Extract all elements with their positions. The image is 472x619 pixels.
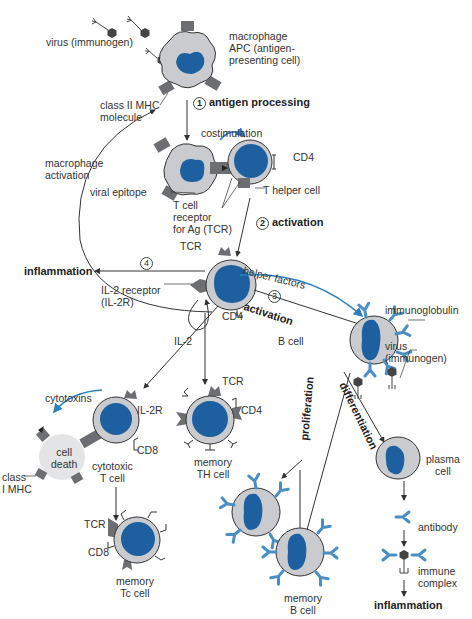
memory-b-cell-2 <box>263 520 337 585</box>
label-il2-receptor: IL-2 receptor (IL-2R) <box>101 284 161 308</box>
label-virus-b: virus (immunogen) <box>385 340 447 364</box>
label-step4: 4 <box>140 256 156 270</box>
memory-th-cell <box>176 386 242 450</box>
label-immunoglobulin: immunoglobulin <box>385 304 459 316</box>
antibody-icon <box>396 512 409 522</box>
immune-response-diagram: virus (immunogen) macrophage APC (antige… <box>0 0 472 619</box>
label-class-ii-mhc: class II MHC molecule <box>100 99 160 123</box>
label-t-cell-receptor: T cell receptor for Ag (TCR) <box>173 199 232 235</box>
label-inflammation-bottom: inflammation <box>374 599 442 611</box>
label-cell-death: cell death <box>51 446 77 470</box>
label-il2r: IL-2R <box>137 404 163 416</box>
label-class-i-mhc: class I MHC <box>2 471 32 495</box>
label-cd4-center: CD4 <box>222 310 243 322</box>
label-memory-b-cell: memory B cell <box>284 592 322 616</box>
label-plasma-cell: plasma cell <box>426 453 460 477</box>
apc-th-conjugate <box>153 132 276 208</box>
label-il2: IL-2 <box>174 335 192 347</box>
label-memory-th-cell: memory TH cell <box>194 456 232 480</box>
label-memory-tc-cell: memory Tc cell <box>116 575 154 599</box>
label-cd4-memory-th: CD4 <box>241 404 262 416</box>
arrow-il2 <box>144 306 218 388</box>
label-costimulation: costimulation <box>201 127 262 139</box>
label-step2-activation: 2activation <box>256 216 323 230</box>
memory-b-cell-1 <box>220 474 288 547</box>
label-step3: 3 <box>268 289 284 303</box>
label-cd8-memory-tc: CD8 <box>88 546 109 558</box>
label-inflammation-left: inflammation <box>24 265 92 277</box>
label-macrophage-apc: macrophage APC (antigen- presenting cell… <box>229 30 300 66</box>
memory-tc-cell <box>108 510 166 570</box>
label-tcr-center: TCR <box>180 240 202 252</box>
label-cytotoxic-t-cell: cytotoxic T cell <box>92 460 133 484</box>
label-macrophage-activation: macrophage activation <box>45 157 103 181</box>
label-b-cell: B cell <box>278 335 304 347</box>
label-viral-epitope: viral epitope <box>90 186 147 198</box>
label-step1-antigen-processing: 1antigen processing <box>193 96 310 110</box>
label-tcr-memory-th: TCR <box>222 375 244 387</box>
label-cd4-th: CD4 <box>293 151 314 163</box>
label-t-helper-cell: T helper cell <box>263 184 320 196</box>
macrophage-apc-cell <box>158 21 221 95</box>
label-virus-immunogen: virus (immunogen) <box>46 36 133 48</box>
label-immune-complex: immune complex <box>418 565 457 589</box>
label-cd8-cytotoxic: CD8 <box>137 444 158 456</box>
arrow-activation-2 <box>237 198 250 256</box>
label-antibody: antibody <box>418 521 458 533</box>
label-tcr-memory-tc: TCR <box>84 518 106 530</box>
plasma-cell <box>376 437 420 479</box>
label-cytotoxins: cytotoxins <box>45 392 92 404</box>
